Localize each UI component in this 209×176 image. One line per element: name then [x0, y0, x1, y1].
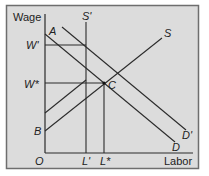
- l-prime-label: L': [82, 155, 91, 167]
- labor-market-diagram: Wage Labor O A B C W' W* L' L* S' S D' D: [0, 0, 209, 176]
- demand-label: D: [172, 141, 180, 153]
- equilibrium-point: [102, 81, 105, 84]
- point-a-label: A: [48, 25, 56, 37]
- supply-label: S: [164, 27, 172, 39]
- l-star-label: L*: [100, 155, 111, 167]
- x-axis-label: Labor: [164, 155, 192, 167]
- supply-fixed-label: S': [82, 10, 92, 22]
- origin-label: O: [35, 155, 44, 167]
- demand-shifted-label: D': [182, 129, 193, 141]
- point-b-label: B: [34, 125, 41, 137]
- point-c-label: C: [108, 79, 116, 91]
- w-star-label: W*: [24, 78, 39, 90]
- y-axis-label: Wage: [13, 11, 41, 23]
- w-prime-label: W': [26, 39, 39, 51]
